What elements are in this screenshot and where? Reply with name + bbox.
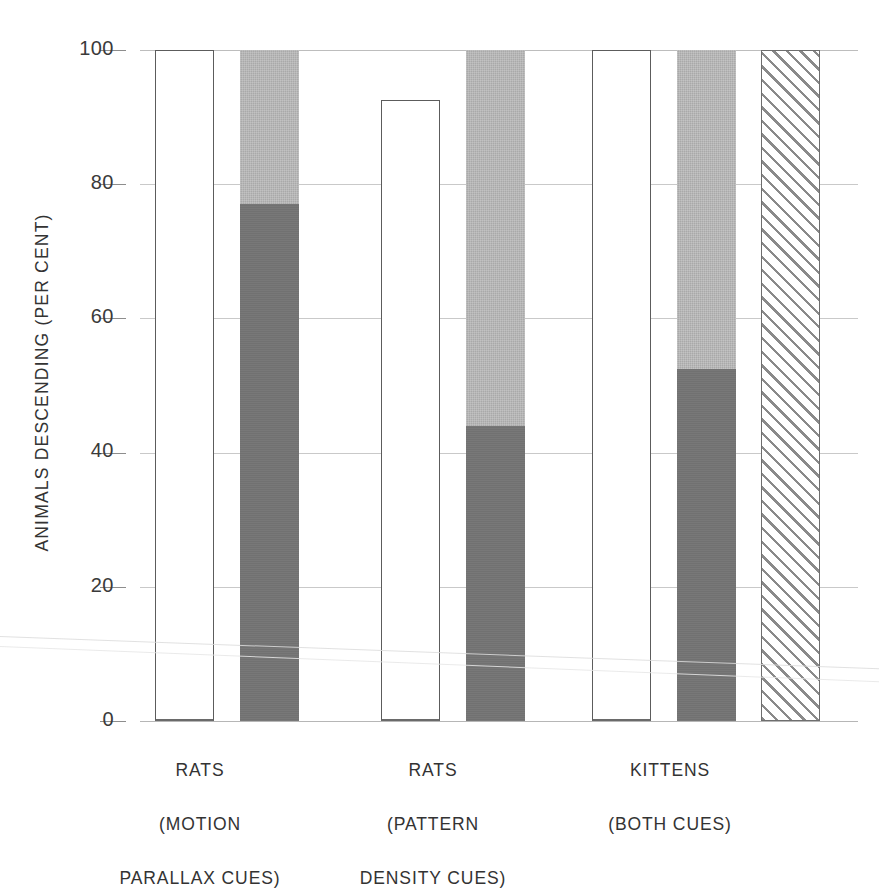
bar-segment-lower: [466, 426, 525, 721]
bar-segment-lower: [240, 204, 299, 721]
bar-rats-pattern-deep: [466, 50, 525, 721]
tick-label-40: 40: [24, 439, 114, 462]
category-label-rats-pattern-density: RATS (PATTERN DENSITY CUES): [338, 730, 528, 892]
category-label-kittens-both-cues: KITTENS (BOTH CUES): [570, 730, 770, 865]
category-label-line-3: DENSITY CUES): [338, 865, 528, 892]
tick-label-100: 100: [24, 37, 114, 60]
plot-area: 100 80 60 40 20 0: [140, 50, 858, 721]
gridline-0: [140, 721, 858, 722]
tick-label-0: 0: [24, 708, 114, 731]
tick-label-20: 20: [24, 574, 114, 597]
category-label-line-1: RATS: [338, 757, 528, 784]
category-label-line-2: (BOTH CUES): [570, 811, 770, 838]
category-label-rats-motion-parallax: RATS (MOTION PARALLAX CUES): [105, 730, 295, 892]
category-label-line-3: PARALLAX CUES): [105, 865, 295, 892]
bar-rats-motion-shallow: [155, 50, 214, 721]
bar-rats-pattern-shallow: [381, 100, 440, 721]
bar-rats-motion-deep: [240, 50, 299, 721]
bar-kittens-hatched: [761, 50, 820, 721]
category-label-line-2: (MOTION: [105, 811, 295, 838]
bar-kittens-deep: [677, 50, 736, 721]
tick-label-80: 80: [24, 171, 114, 194]
tick-label-60: 60: [24, 305, 114, 328]
category-label-line-2: (PATTERN: [338, 811, 528, 838]
category-label-line-1: RATS: [105, 757, 295, 784]
category-label-line-1: KITTENS: [570, 757, 770, 784]
bar-kittens-shallow: [592, 50, 651, 721]
bar-segment-lower: [677, 369, 736, 721]
